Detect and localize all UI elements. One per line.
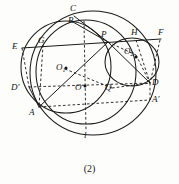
segment-A-P [39,42,108,107]
point-label-e: E [12,42,18,51]
point-label-o2: O2 [124,47,134,59]
center-dot-o2 [135,56,138,59]
figure-canvas [0,0,179,184]
point-label-q: Q [105,83,112,92]
point-label-f: F [158,28,164,37]
point-label-ap: A′ [152,95,159,104]
dashed-line-l [84,21,86,130]
point-label-b: B [68,16,74,25]
point-label-o1: O1 [56,63,66,75]
point-label-a: A [29,108,35,117]
dashed-O2-D [136,55,150,83]
segment-A-Dprime [29,87,39,107]
point-label-dp: D′ [11,83,19,92]
geometry-figure: CBPHFEGO2O1DD′OQA′A l (2) [0,0,179,184]
point-label-p: P [101,30,107,39]
point-label-d: D [152,78,159,87]
figure-caption: (2) [0,163,179,174]
center-dot-o [84,85,87,88]
point-label-g: G [38,36,45,45]
line-label-l: l [84,131,87,140]
dashed-A-Aprime [39,100,150,107]
point-label-c: C [70,4,76,13]
point-label-o: O [75,83,82,92]
point-label-h: H [131,28,138,37]
